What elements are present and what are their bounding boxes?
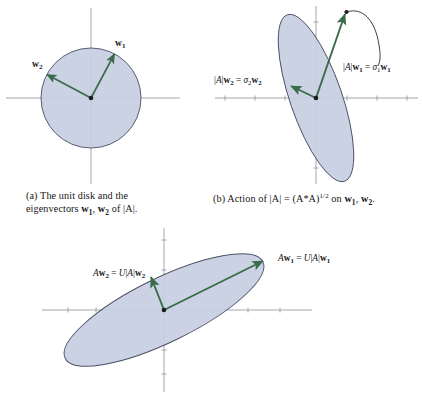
caption-b: (b) Action of |A| = (A*A)1/2 on w1, w2. [213,190,421,210]
label-Aw1: Aw1 = U|A|w1 [277,253,331,264]
panel-a-canvas: w1 w2 [0,0,211,186]
caption-b-exp: 1/2 [320,192,329,199]
origin-dot [162,308,167,313]
caption-b-line1: (b) Action of |A| = (A*A)1/2 on w1, w2. [213,190,421,210]
panel-c-canvas: Aw1 = U|A|w1 Aw2 = U|A|w2 [40,222,382,394]
label-sigma1: |A|w1 = σ1w1 [343,62,391,73]
caption-c-partial [150,386,280,395]
caption-a: (a) The unit disk and the eigenvectors w… [26,190,201,219]
caption-b-w1: w [344,193,351,204]
origin-dot [314,96,319,101]
panel-c-rotated-disk: Aw1 = U|A|w1 Aw2 = U|A|w2 [40,222,382,394]
caption-a-line1: (a) The unit disk and the [26,190,201,203]
caption-b-on: on [329,193,345,204]
label-sigma2: |A|w2 = σ2w2 [214,75,262,86]
caption-a-w1: w [81,203,88,214]
origin-dot [89,96,94,101]
panel-b-stretched-disk: |A|w1 = σ1w1 |A|w2 = σ2w2 [211,0,422,186]
panel-b-canvas: |A|w1 = σ1w1 |A|w2 = σ2w2 [211,0,422,186]
caption-b-post: . [372,193,375,204]
caption-b-pre: (b) Action of |A| = (A*A) [213,193,320,204]
leader-line-sigma1 [347,11,381,66]
label-w2: w2 [32,59,43,71]
svd-figure: w1 w2 [0,0,422,397]
label-Aw2: Aw2 = U|A|w2 [92,268,146,279]
label-w1: w1 [115,38,126,50]
caption-a-line2-pre: eigenvectors [26,203,81,214]
caption-a-post: of |A|. [109,203,137,214]
caption-a-line2: eigenvectors w1, w2 of |A|. [26,203,201,220]
panel-a-unit-disk: w1 w2 [0,0,211,186]
